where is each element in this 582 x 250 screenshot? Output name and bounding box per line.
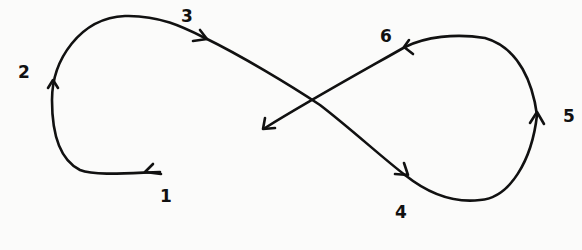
- path-left-loop: [52, 16, 205, 174]
- waypoint-label-3: 3: [181, 8, 193, 25]
- path-drawing: [0, 0, 582, 250]
- path-right-loop-bottom: [405, 115, 537, 201]
- path-diagonal-down: [205, 38, 405, 175]
- arrow-1-icon: [145, 164, 161, 174]
- waypoint-label-2: 2: [18, 64, 30, 81]
- waypoint-label-1: 1: [160, 188, 172, 205]
- waypoint-label-4: 4: [395, 204, 407, 221]
- waypoint-label-6: 6: [380, 28, 392, 45]
- path-right-loop-top: [405, 36, 537, 115]
- arrow-6-icon: [404, 40, 413, 54]
- waypoint-label-5: 5: [563, 108, 575, 125]
